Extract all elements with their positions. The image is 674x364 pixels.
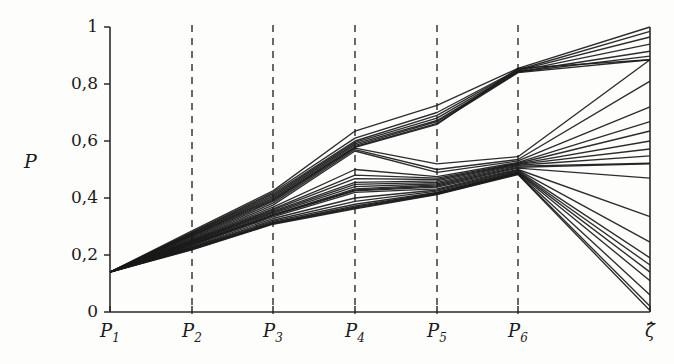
data-line	[110, 164, 650, 272]
x-tick-label-P_5: P5	[407, 320, 467, 345]
x-tick-label-base: P	[345, 320, 357, 341]
x-tick-label-P_3: P3	[243, 320, 303, 345]
y-tick-label: 0,8	[30, 73, 98, 93]
x-tick-label-base: ζ̂	[645, 320, 655, 341]
y-tick-label: 0,6	[30, 130, 98, 150]
x-tick-label-subscript: 5	[439, 331, 447, 345]
y-tick-label: 0,4	[30, 187, 98, 207]
x-tick-label-subscript: 1	[112, 331, 120, 345]
data-line	[110, 141, 650, 272]
x-tick-label-base: P	[427, 320, 439, 341]
x-tick-label-subscript: 6	[520, 331, 528, 345]
y-tick-label: 1	[30, 16, 98, 36]
parallel-coordinates-figure: P 00,20,40,60,81 P1P2P3P4P5P6ζ̂	[0, 0, 674, 364]
x-tick-label-subscript: 2	[194, 331, 202, 345]
x-tick-label-P_4: P4	[325, 320, 385, 345]
x-tick-label-P_2: P2	[162, 320, 222, 345]
axes-group	[104, 27, 650, 312]
data-series-group	[110, 27, 650, 311]
x-tick-label-P_6: P6	[488, 320, 548, 345]
y-tick-label: 0,2	[30, 244, 98, 264]
data-line	[110, 172, 650, 272]
chart-canvas	[0, 0, 674, 364]
x-tick-label-P_1: P1	[80, 320, 140, 345]
x-tick-label-subscript: 3	[275, 331, 283, 345]
y-tick-label: 0	[30, 301, 98, 321]
x-tick-label-base: P	[100, 320, 112, 341]
x-tick-label-subscript: 4	[357, 331, 365, 345]
y-axis-label: P	[24, 150, 37, 172]
x-tick-label-base: P	[508, 320, 520, 341]
data-line	[110, 163, 650, 272]
x-tick-label-zeta_hat: ζ̂	[620, 320, 674, 341]
x-tick-label-base: P	[182, 320, 194, 341]
x-tick-label-base: P	[263, 320, 275, 341]
